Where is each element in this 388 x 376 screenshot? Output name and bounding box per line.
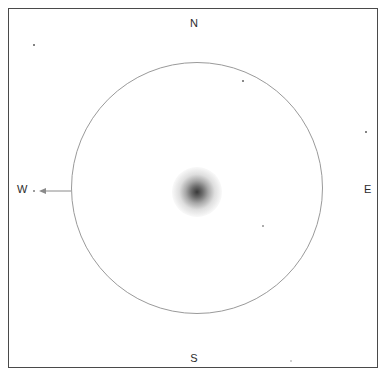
cardinal-label-east: E [364, 183, 371, 195]
star-point [365, 131, 367, 133]
west-direction-arrow [39, 186, 72, 196]
cardinal-label-south: S [0, 352, 388, 364]
star-point [262, 225, 264, 227]
star-point [33, 44, 35, 46]
cardinal-label-west: W [17, 183, 27, 195]
star-point [33, 190, 35, 192]
star-point [242, 80, 244, 82]
cardinal-label-north: N [0, 17, 388, 29]
cut-off-header [0, 0, 388, 7]
star-chart-canvas: N S W E [0, 0, 388, 376]
chart-frame [8, 8, 378, 368]
deep-sky-object [172, 167, 222, 217]
